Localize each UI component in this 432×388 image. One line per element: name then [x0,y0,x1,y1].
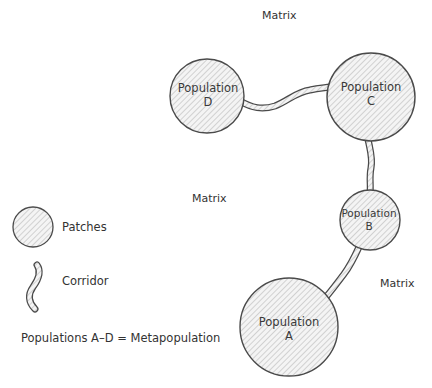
corridor-c-b [368,139,372,192]
population-b-label: Population B [341,207,396,233]
population-d-id: D [178,95,238,109]
legend-note: Populations A–D = Metapopulation [21,332,220,344]
population-a-name: Population [259,315,319,329]
population-c-id: C [341,94,401,108]
legend-patch-icon [13,207,53,247]
population-c-name: Population [341,80,401,94]
corridor-b-a [326,247,359,297]
population-d-label: Population D [178,81,238,109]
population-c-label: Population C [341,80,401,108]
population-a-id: A [259,329,319,343]
corridor-d-c [240,87,330,108]
population-b-id: B [341,220,396,233]
legend-patches-label: Patches [62,221,107,233]
legend-corridor-label: Corridor [62,275,109,287]
legend-corridor-icon [29,265,39,309]
population-b-name: Population [341,207,396,220]
matrix-label-top: Matrix [262,10,297,22]
population-a-label: Population A [259,315,319,343]
matrix-label-middle: Matrix [192,193,227,205]
matrix-label-right: Matrix [380,278,415,290]
population-d-name: Population [178,81,238,95]
